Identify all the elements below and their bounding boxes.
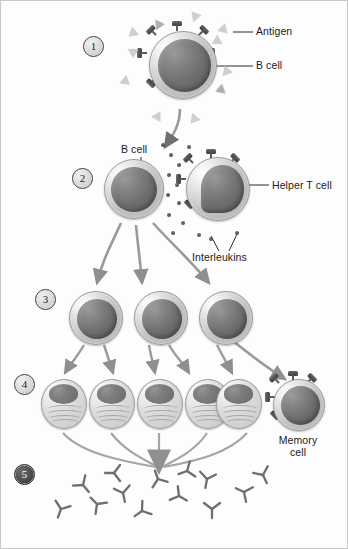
- interleukin-dot: [167, 173, 171, 177]
- helper-t-cell-label: Helper T cell: [272, 179, 332, 191]
- antibody: [105, 465, 120, 481]
- clone-cell: [199, 291, 253, 345]
- interleukin-dot: [177, 201, 181, 205]
- interleukin-dot: [175, 183, 179, 187]
- clone-cell: [69, 291, 123, 345]
- antibody: [85, 492, 107, 514]
- immune-response-diagram: 1 2 3 4 5 Antigen B cell: [0, 0, 348, 549]
- antibody: [204, 503, 220, 518]
- antibody: [130, 501, 151, 523]
- plasma-cell: [216, 379, 262, 429]
- memory-cell: [273, 379, 325, 431]
- antibody: [232, 481, 252, 502]
- antigen-particle: [216, 24, 227, 36]
- memory-cell-label-line1: Memory: [269, 435, 327, 447]
- plasma-cell: [137, 379, 183, 429]
- interleukin-dot: [171, 231, 175, 235]
- interleukin-dot: [166, 193, 170, 197]
- memory-cell-label-line2: cell: [269, 447, 327, 459]
- antigen-particle: [215, 84, 228, 97]
- step-badge-4: 4: [14, 374, 35, 395]
- interleukin-dot: [161, 143, 165, 147]
- antibody: [198, 472, 216, 490]
- step-badge-5: 5: [14, 464, 35, 485]
- interleukin-dot: [235, 231, 239, 235]
- activated-b-cell: [104, 159, 164, 219]
- b-cell-label-step1: B cell: [256, 59, 282, 71]
- antibody: [147, 468, 167, 488]
- antibody: [50, 501, 70, 521]
- interleukin-dot: [187, 145, 191, 149]
- interleukin-dot: [181, 221, 185, 225]
- antibody: [73, 475, 95, 497]
- antibody: [253, 466, 274, 486]
- antigen-particle: [223, 66, 234, 77]
- interleukin-dot: [197, 233, 201, 237]
- antigen-particle: [189, 12, 201, 24]
- interleukin-dot: [169, 153, 173, 157]
- antigen-label: Antigen: [256, 25, 292, 37]
- antibody: [170, 486, 191, 507]
- interleukin-dot: [209, 237, 213, 241]
- step-badge-1: 1: [83, 36, 104, 57]
- plasma-cell: [89, 379, 135, 429]
- clone-cell: [134, 291, 188, 345]
- antigen-particle: [188, 112, 200, 124]
- antibody: [114, 485, 133, 503]
- antibody: [176, 461, 196, 481]
- step-badge-2: 2: [72, 168, 93, 189]
- b-cell: [149, 31, 217, 99]
- antigen-particle: [118, 75, 130, 87]
- antigen-particle: [151, 109, 164, 122]
- interleukin-dot: [177, 163, 181, 167]
- step-badge-3: 3: [35, 289, 56, 310]
- interleukins-label: Interleukins: [192, 251, 247, 263]
- helper-t-cell: [186, 157, 250, 221]
- interleukin-dot: [167, 213, 171, 217]
- antigen-particle: [127, 26, 138, 37]
- b-cell-label-step2: B cell: [121, 143, 147, 155]
- plasma-cell: [41, 379, 87, 429]
